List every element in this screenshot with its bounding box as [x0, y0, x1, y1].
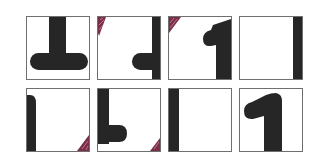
l-shape-icon [98, 89, 160, 151]
puzzle-tile-r2-c2[interactable] [97, 88, 161, 152]
inverted-t-shape-icon [27, 17, 89, 79]
puzzle-tile-r1-c4[interactable] [239, 16, 303, 80]
puzzle-tile-r2-c3[interactable] [168, 88, 232, 152]
marker-triangle-icon [169, 17, 181, 33]
puzzle-tile-r1-c3[interactable] [168, 16, 232, 80]
marker-triangle-icon [150, 138, 160, 151]
puzzle-tile-r2-c1[interactable] [26, 88, 90, 152]
one-top-shape-icon [169, 17, 231, 79]
left-bar-rounded-shape-icon [27, 89, 89, 151]
puzzle-tile-r1-c1[interactable] [26, 16, 90, 80]
puzzle-tile-r1-c2[interactable] [97, 16, 161, 80]
left-bar-shape-icon [169, 89, 231, 151]
right-bar-shape-icon [240, 17, 302, 79]
tile-puzzle-grid [26, 16, 304, 153]
right-bar-foot-shape-icon [98, 17, 160, 79]
digit-one-shape-icon [240, 89, 302, 151]
puzzle-tile-r2-c4[interactable] [239, 88, 303, 152]
marker-triangle-icon [77, 135, 89, 151]
